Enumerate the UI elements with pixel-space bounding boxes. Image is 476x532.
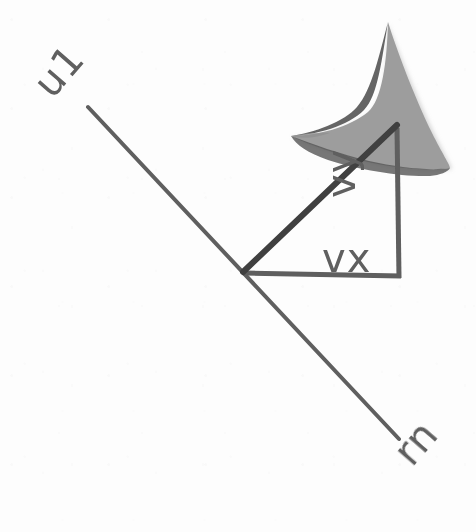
label-vx: vx	[322, 235, 371, 281]
label-rn: rn	[384, 411, 447, 474]
label-u1: u1	[24, 36, 93, 106]
vy-leg	[397, 128, 399, 278]
figure-canvas: u1 rn vy vx	[0, 0, 476, 532]
vector-decomposition-figure: u1 rn vy vx	[0, 0, 476, 532]
label-vy: vy	[318, 149, 364, 198]
